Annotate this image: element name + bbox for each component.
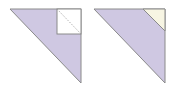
white-square-cutout bbox=[57, 9, 81, 34]
diagram-canvas bbox=[0, 0, 172, 86]
right-figure bbox=[94, 9, 165, 83]
left-figure bbox=[10, 9, 81, 83]
geometry-diagram bbox=[0, 0, 172, 86]
